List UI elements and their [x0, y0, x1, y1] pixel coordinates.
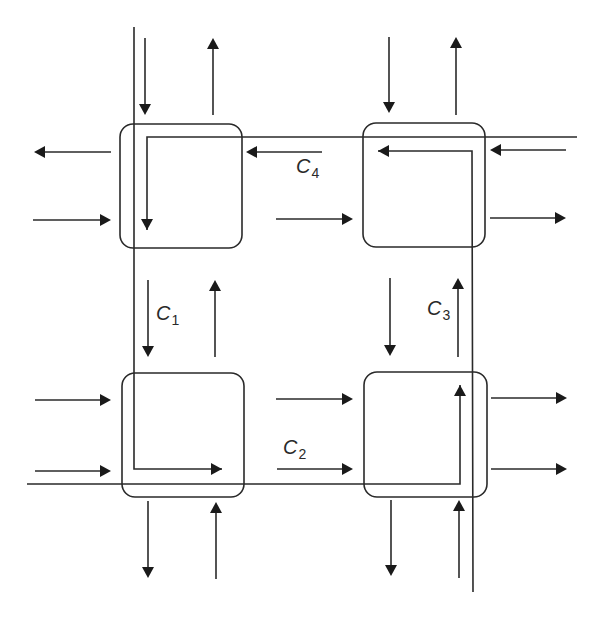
- arrow-left-icon: [246, 146, 257, 158]
- circulation-routes: [27, 27, 577, 592]
- arrow-up-icon: [207, 38, 219, 49]
- intersection-bottom-left: [122, 373, 244, 497]
- arrow-down-icon: [141, 219, 153, 230]
- lane-arrow-down: [142, 501, 154, 578]
- lane-arrow-up: [210, 502, 222, 579]
- arrow-up-icon: [452, 278, 464, 289]
- intersection-bottom-right: [364, 372, 487, 497]
- arrow-right-icon: [342, 213, 353, 225]
- lane-arrow-left: [490, 144, 566, 156]
- lane-arrow-down: [385, 500, 397, 576]
- route-c1: [134, 27, 222, 475]
- lane-arrow-up: [207, 38, 219, 115]
- arrow-up-icon: [210, 502, 222, 513]
- arrow-right-icon: [556, 392, 567, 404]
- arrow-down-icon: [384, 345, 396, 356]
- lane-arrow-up: [452, 278, 464, 357]
- lane-arrow-up: [453, 500, 465, 578]
- lane-arrow-up: [209, 280, 221, 357]
- arrow-left-icon: [490, 144, 501, 156]
- lane-arrow-down: [384, 278, 396, 356]
- traffic-network-diagram: [0, 0, 606, 621]
- arrow-up-icon: [453, 500, 465, 511]
- arrow-down-icon: [383, 102, 395, 113]
- arrow-right-icon: [556, 463, 567, 475]
- lane-arrow-right: [491, 392, 567, 404]
- arrow-left-icon: [378, 145, 389, 157]
- intersection-top-right: [363, 123, 485, 247]
- arrow-right-icon: [555, 212, 566, 224]
- lane-arrow-right: [276, 393, 353, 405]
- arrow-up-icon: [454, 385, 466, 396]
- lane-arrow-right: [33, 214, 111, 226]
- arrow-down-icon: [142, 346, 154, 357]
- lane-arrow-right: [277, 463, 353, 475]
- route-label-c4: C4: [296, 156, 319, 180]
- arrow-down-icon: [139, 104, 151, 115]
- arrow-right-icon: [100, 465, 111, 477]
- route-label-c2: C2: [283, 437, 306, 461]
- intersection-top-left: [120, 124, 242, 248]
- lane-arrow-down: [139, 38, 151, 115]
- lane-arrow-right: [490, 212, 566, 224]
- lane-arrow-down: [142, 280, 154, 357]
- arrow-down-icon: [385, 565, 397, 576]
- lane-arrows: [33, 37, 567, 579]
- arrow-up-icon: [450, 37, 462, 48]
- route-label-c3: C3: [427, 298, 450, 322]
- arrow-left-icon: [34, 146, 45, 158]
- arrow-right-icon: [100, 394, 111, 406]
- route-label-c1: C1: [156, 303, 179, 327]
- lane-arrow-right: [35, 465, 111, 477]
- lane-arrow-right: [491, 463, 567, 475]
- lane-arrow-right: [35, 394, 111, 406]
- arrow-right-icon: [342, 393, 353, 405]
- arrow-up-icon: [209, 280, 221, 291]
- arrow-right-icon: [211, 463, 222, 475]
- lane-arrow-right: [276, 213, 353, 225]
- arrow-down-icon: [142, 567, 154, 578]
- lane-arrow-down: [383, 37, 395, 113]
- lane-arrow-left: [34, 146, 111, 158]
- arrow-right-icon: [100, 214, 111, 226]
- lane-arrow-up: [450, 37, 462, 115]
- arrow-right-icon: [342, 463, 353, 475]
- route-c4: [141, 137, 577, 230]
